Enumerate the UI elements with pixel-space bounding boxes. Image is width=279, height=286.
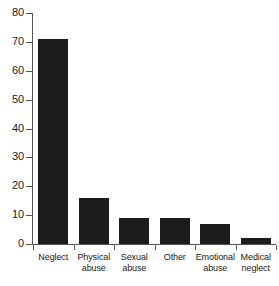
x-axis-tick-label-line: Physical <box>74 252 115 263</box>
y-axis-tick-label: 20 <box>0 180 24 191</box>
plot-area <box>33 13 276 244</box>
y-axis-tick-label-text: 50 <box>0 94 24 105</box>
y-axis-tick <box>26 71 32 72</box>
x-axis-tick-label-line: neglect <box>236 263 277 274</box>
y-axis-tick-label-text: 10 <box>0 209 24 220</box>
y-axis-tick <box>26 100 32 101</box>
y-axis-tick <box>26 129 32 130</box>
y-axis-tick-label: 0 <box>0 238 24 249</box>
x-axis-tick <box>114 245 115 250</box>
x-axis-tick-label: Emotionalabuse <box>195 252 236 273</box>
bar <box>160 218 190 244</box>
y-axis-tick-label-text: 0 <box>0 238 24 249</box>
bar <box>200 224 230 244</box>
y-axis-tick-label: 60 <box>0 65 24 76</box>
y-axis-tick-label: 30 <box>0 151 24 162</box>
x-axis-tick <box>195 245 196 250</box>
x-axis-tick-label-line: abuse <box>195 263 236 274</box>
bar <box>119 218 149 244</box>
y-axis-tick-label: 80 <box>0 7 24 18</box>
x-axis-tick <box>33 245 34 250</box>
x-axis-tick-label: Neglect <box>33 252 74 263</box>
y-axis-tick <box>26 42 32 43</box>
y-axis-tick-label: 70 <box>0 36 24 47</box>
x-axis-tick-label-line: Emotional <box>195 252 236 263</box>
x-axis-tick-label-line: Other <box>155 252 196 263</box>
y-axis-tick-label: 40 <box>0 123 24 134</box>
x-axis-tick-label-line: Neglect <box>33 252 74 263</box>
y-axis-tick-label-text: 20 <box>0 180 24 191</box>
y-axis-tick-label-text: 80 <box>0 7 24 18</box>
y-axis-tick-label-text: 30 <box>0 151 24 162</box>
x-axis-tick-label-line: abuse <box>114 263 155 274</box>
x-axis-tick-label: Other <box>155 252 196 263</box>
bar <box>79 198 109 244</box>
x-axis-tick-label-line: Sexual <box>114 252 155 263</box>
x-axis-tick-label: Physicalabuse <box>74 252 115 273</box>
x-axis-tick-label: Sexualabuse <box>114 252 155 273</box>
bar-chart: 80706050403020100 NeglectPhysicalabuseSe… <box>0 0 279 286</box>
y-axis-tick-label: 50 <box>0 94 24 105</box>
bar <box>38 39 68 244</box>
y-axis-tick <box>26 186 32 187</box>
x-axis-tick <box>276 245 277 250</box>
x-axis-tick-label-line: Medical <box>236 252 277 263</box>
y-axis-tick <box>26 157 32 158</box>
y-axis-tick-label: 10 <box>0 209 24 220</box>
x-axis-tick <box>74 245 75 250</box>
y-axis-tick <box>26 13 32 14</box>
y-axis-tick-label-text: 60 <box>0 65 24 76</box>
y-axis-tick-label-text: 70 <box>0 36 24 47</box>
x-axis-tick <box>155 245 156 250</box>
y-axis-tick-label-text: 40 <box>0 123 24 134</box>
x-axis-tick <box>236 245 237 250</box>
x-axis-tick-label-line: abuse <box>74 263 115 274</box>
x-axis-tick-label: Medicalneglect <box>236 252 277 273</box>
y-axis-tick <box>26 215 32 216</box>
